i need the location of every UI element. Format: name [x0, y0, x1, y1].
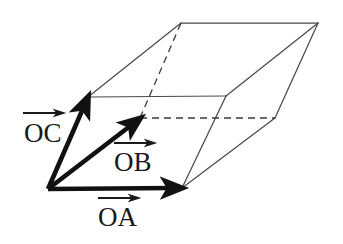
vector-group [48, 104, 174, 189]
edge-a-to-ab [182, 118, 275, 188]
edge-c-to-backtop [88, 23, 181, 97]
edge-righttop-to-backbottom [275, 23, 318, 118]
vector-parallelepiped-figure: OC OB OA [0, 0, 343, 244]
figure-canvas: OC OB OA [0, 0, 343, 244]
vector-oa-shaft [48, 188, 174, 189]
label-oc-group: OC [23, 113, 62, 148]
label-oa-group: OA [98, 198, 137, 232]
label-oa: OA [98, 202, 137, 232]
parallelepiped-hidden-edges [140, 23, 275, 118]
edge-righttop-to-frontright-top [226, 23, 318, 96]
edge-c-to-ac [88, 96, 226, 97]
edge-ac-to-a [182, 96, 226, 188]
hidden-edge-b-to-backtop [140, 23, 181, 118]
label-ob: OB [114, 147, 152, 177]
label-ob-group: OB [114, 143, 152, 177]
label-oc: OC [24, 118, 62, 148]
